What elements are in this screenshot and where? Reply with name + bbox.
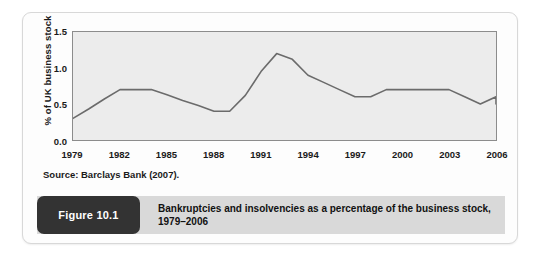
x-tick-1997: 1997 [345, 149, 366, 160]
chart-region: % of UK business stock 0.00.51.01.5 1979… [23, 13, 519, 163]
x-tick-1994: 1994 [298, 149, 319, 160]
figure-caption-bar: Figure 10.1 Bankruptcies and insolvencie… [37, 196, 505, 234]
caption-line-1: Bankruptcies and insolvencies as a perce… [158, 203, 491, 214]
figure-card: % of UK business stock 0.00.51.01.5 1979… [22, 12, 518, 244]
figure-caption-text: Bankruptcies and insolvencies as a perce… [140, 196, 505, 234]
x-tick-2000: 2000 [392, 149, 413, 160]
plot-area [72, 31, 497, 141]
x-tick-1982: 1982 [109, 149, 130, 160]
x-tick-2006: 2006 [486, 149, 507, 160]
y-tick-0.0: 0.0 [23, 136, 67, 147]
x-tick-1988: 1988 [203, 149, 224, 160]
y-tick-1.0: 1.0 [23, 62, 67, 73]
source-note: Source: Barclays Bank (2007). [43, 169, 179, 180]
x-tick-1979: 1979 [61, 149, 82, 160]
y-tick-0.5: 0.5 [23, 99, 67, 110]
x-tick-1991: 1991 [250, 149, 271, 160]
y-tick-1.5: 1.5 [23, 26, 67, 37]
line-chart-svg [73, 32, 496, 140]
x-tick-2003: 2003 [439, 149, 460, 160]
caption-line-2: 1979–2006 [158, 216, 208, 227]
x-tick-1985: 1985 [156, 149, 177, 160]
data-series-line [73, 54, 496, 119]
figure-number-badge: Figure 10.1 [37, 196, 140, 234]
